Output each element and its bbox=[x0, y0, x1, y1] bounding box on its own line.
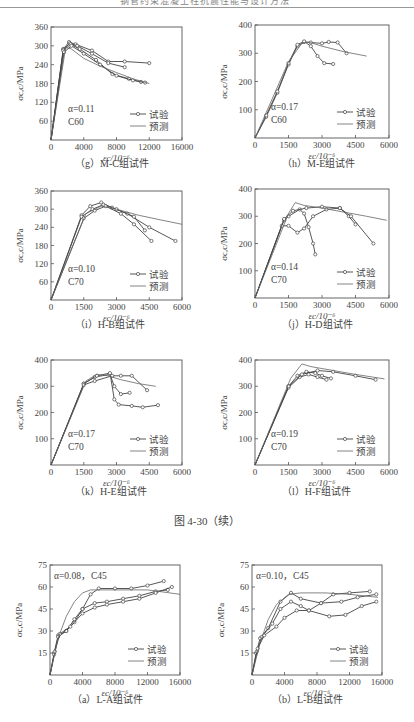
test-marker bbox=[267, 626, 270, 629]
test-marker bbox=[287, 63, 290, 66]
test-marker bbox=[89, 205, 92, 208]
test-marker bbox=[259, 637, 262, 640]
test-marker bbox=[291, 209, 294, 212]
test-marker bbox=[82, 382, 85, 385]
legend-predict-label: 预测 bbox=[147, 657, 167, 667]
test-marker bbox=[68, 42, 71, 45]
page-header-text: 钢管约束混凝土柱抗震性能与设计方法 bbox=[120, 0, 290, 7]
test-marker bbox=[316, 54, 319, 57]
y-tick-label: 360 bbox=[35, 186, 49, 196]
chart-annotation: α=0.10 bbox=[68, 264, 95, 274]
test-marker bbox=[289, 600, 292, 603]
y-tick-label: 30 bbox=[38, 626, 48, 636]
test-marker bbox=[296, 43, 299, 46]
x-tick-label: 4000 bbox=[74, 677, 93, 687]
test-marker bbox=[338, 206, 341, 209]
test-line bbox=[255, 208, 356, 298]
y-tick-label: 400 bbox=[239, 20, 253, 30]
x-tick-label: 4000 bbox=[276, 677, 295, 687]
test-marker bbox=[123, 66, 126, 69]
test-line bbox=[50, 587, 172, 675]
x-tick-label: 3000 bbox=[313, 300, 332, 310]
legend-test-label: 试验 bbox=[356, 267, 376, 278]
test-marker bbox=[282, 217, 285, 220]
plot-frame bbox=[255, 25, 389, 138]
legend-test-label: 试验 bbox=[147, 644, 167, 655]
test-marker bbox=[375, 600, 378, 603]
test-marker bbox=[287, 62, 290, 65]
predict-line bbox=[255, 42, 367, 138]
test-marker bbox=[69, 625, 72, 628]
test-marker bbox=[344, 613, 347, 616]
test-marker bbox=[347, 215, 350, 218]
test-marker bbox=[299, 604, 302, 607]
test-line bbox=[51, 42, 149, 140]
test-marker bbox=[296, 45, 299, 48]
test-marker bbox=[82, 382, 85, 385]
chart-caption: （h）M-E组试件 bbox=[282, 155, 355, 170]
test-marker bbox=[107, 61, 110, 64]
test-marker bbox=[111, 206, 114, 209]
test-marker bbox=[138, 597, 141, 600]
test-marker bbox=[368, 590, 371, 593]
x-tick-label: 0 bbox=[250, 677, 255, 687]
test-marker bbox=[69, 43, 72, 46]
y-tick-label: 400 bbox=[239, 184, 253, 194]
y-tick-label: 200 bbox=[239, 408, 253, 418]
test-marker bbox=[111, 72, 114, 75]
plot-frame bbox=[51, 27, 182, 140]
test-marker bbox=[115, 208, 118, 211]
test-marker bbox=[117, 403, 120, 406]
test-marker bbox=[93, 606, 96, 609]
x-tick-label: 3000 bbox=[108, 302, 127, 312]
legend-predict-label: 预测 bbox=[356, 447, 376, 457]
test-marker bbox=[276, 90, 279, 93]
test-marker bbox=[279, 600, 282, 603]
legend-test-label: 试验 bbox=[356, 434, 376, 445]
chart-caption: （i）H-B组试件 bbox=[75, 316, 145, 331]
y-tick-label: 200 bbox=[35, 408, 49, 418]
plot-frame bbox=[51, 191, 182, 300]
test-marker bbox=[139, 80, 142, 83]
y-tick-label: 300 bbox=[35, 41, 49, 51]
test-marker bbox=[280, 224, 283, 227]
x-tick-label: 4500 bbox=[347, 140, 366, 150]
x-tick-label: 12000 bbox=[138, 142, 161, 152]
test-marker bbox=[122, 600, 125, 603]
test-marker bbox=[78, 47, 81, 50]
test-marker bbox=[332, 370, 335, 373]
y-tick-label: 180 bbox=[35, 241, 49, 251]
figure-caption: 图 4-30（续） bbox=[0, 512, 414, 528]
y-tick-label: 300 bbox=[35, 381, 49, 391]
y-tick-label: 120 bbox=[35, 97, 49, 107]
test-marker bbox=[305, 370, 308, 373]
y-tick-label: 400 bbox=[35, 355, 49, 365]
test-marker bbox=[174, 239, 177, 242]
test-marker bbox=[314, 372, 317, 375]
chart-annotation: α=0.11 bbox=[68, 104, 95, 114]
y-tick-label: 100 bbox=[35, 434, 49, 444]
test-line bbox=[255, 207, 373, 298]
test-line bbox=[50, 581, 164, 675]
y-tick-label: 100 bbox=[239, 105, 253, 115]
test-marker bbox=[314, 253, 317, 256]
y-tick-label: 75 bbox=[240, 560, 250, 570]
test-marker bbox=[307, 226, 310, 229]
x-tick-label: 0 bbox=[49, 467, 54, 477]
x-tick-label: 4500 bbox=[140, 467, 159, 477]
test-marker bbox=[303, 227, 306, 230]
chart-caption: （a）L-A组试件 bbox=[72, 691, 143, 706]
test-marker bbox=[141, 406, 144, 409]
test-marker bbox=[108, 372, 111, 375]
test-marker bbox=[74, 43, 77, 46]
legend-test-label: 试验 bbox=[349, 644, 369, 655]
chart-caption: （k）H-E组试件 bbox=[75, 483, 147, 498]
chart-j-plot: 01500300045006000100200300400εc/10⁻⁶σc,c… bbox=[0, 0, 414, 722]
test-marker bbox=[57, 635, 60, 638]
legend-predict-label: 预测 bbox=[349, 657, 369, 667]
test-line bbox=[50, 590, 168, 675]
test-marker bbox=[332, 593, 335, 596]
test-marker bbox=[320, 42, 323, 45]
test-marker bbox=[263, 634, 266, 637]
chart-annotation: α=0.17 bbox=[271, 102, 298, 112]
